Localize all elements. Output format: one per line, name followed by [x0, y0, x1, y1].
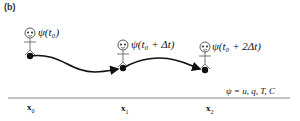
particle-label-t2: ψ(t₀ + 2Δt) — [212, 40, 261, 52]
trajectory-curve-2 — [123, 58, 200, 69]
stick-figure-1-icon — [24, 28, 36, 59]
position-x1: x1 — [121, 103, 129, 115]
particle-label-t1: ψ(t₀ + Δt) — [131, 38, 174, 50]
stick-figure-2-icon — [117, 40, 129, 71]
variable-definition: ψ = u, q, T, C — [226, 86, 275, 96]
trajectory-diagram — [0, 0, 300, 121]
position-x2: x2 — [206, 103, 214, 115]
trajectory-curve-1 — [30, 55, 118, 72]
position-x0: x0 — [27, 102, 35, 114]
particle-label-t0: ψ(t₀) — [38, 26, 59, 38]
stick-figure-3-icon — [199, 42, 211, 73]
